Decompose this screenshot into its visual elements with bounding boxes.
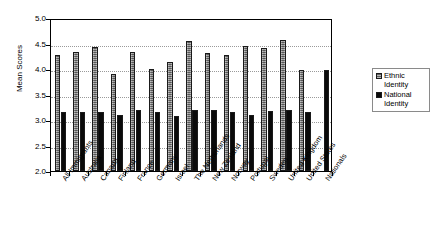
legend-item-ethnic-identity: EthnicIdentity (376, 72, 426, 89)
bar-chart: Mean Scores 5.04.54.03.53.02.52.0 All Im… (0, 0, 435, 248)
legend-label-national-identity: NationalIdentity (384, 91, 412, 108)
x-axis-label-norway: Norway (230, 157, 251, 182)
ethnic-swatch-icon (376, 73, 382, 79)
x-axis-labels: All ImmigrantsAustraliaCanadaFinlandFran… (0, 0, 435, 248)
x-axis-label-finland: Finland (117, 158, 138, 183)
legend-item-national-identity: NationalIdentity (376, 91, 426, 108)
x-axis-label-france: France (136, 159, 156, 183)
national-swatch-icon (376, 92, 382, 98)
legend-label-ethnic-identity: EthnicIdentity (384, 72, 408, 89)
x-axis-label-israel: Israel (174, 163, 191, 183)
chart-legend: EthnicIdentity NationalIdentity (372, 68, 430, 112)
